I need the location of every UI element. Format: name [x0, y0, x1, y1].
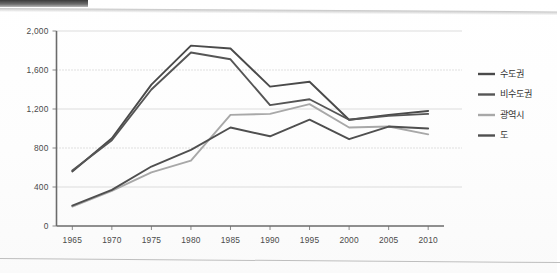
x-tick-label: 1980: [181, 235, 201, 245]
x-tick-label: 1975: [142, 235, 162, 245]
y-tick-label: 1,200: [27, 104, 49, 114]
x-tick-label: 1995: [300, 235, 320, 245]
page-top-dark-bar: [0, 0, 88, 7]
chart-container: 04008001,2001,6002,000 19651970197519801…: [0, 12, 557, 260]
legend-label-2[interactable]: 비수도권: [500, 88, 532, 99]
chart-legend: 수도권비수도권광역시도: [478, 68, 532, 141]
x-tick-label: 1970: [102, 235, 122, 245]
legend-label-4[interactable]: 도: [500, 130, 508, 140]
series-line-4: [72, 120, 428, 206]
x-tick-label: 2010: [418, 235, 438, 245]
y-tick-label: 1,600: [27, 65, 49, 75]
gridlines: [57, 31, 463, 187]
y-tick-label: 800: [34, 143, 49, 153]
x-tick-label: 1990: [260, 235, 280, 245]
x-tick-label: 2005: [379, 235, 399, 245]
y-tick-label: 400: [34, 182, 49, 192]
y-tick-label: 0: [44, 221, 49, 231]
x-tick-label: 1965: [63, 235, 83, 245]
x-axis-tick-labels: 1965197019751980198519901995200020052010: [63, 235, 438, 245]
legend-label-3[interactable]: 광역시: [500, 109, 524, 120]
x-tick-label: 2000: [339, 235, 359, 245]
x-tick-label: 1985: [221, 235, 241, 245]
y-axis-tick-labels: 04008001,2001,6002,000: [27, 26, 49, 231]
series-line-1: [72, 46, 428, 172]
legend-label-1[interactable]: 수도권: [500, 68, 524, 79]
line-chart: 04008001,2001,6002,000 19651970197519801…: [0, 12, 557, 260]
y-tick-label: 2,000: [27, 26, 49, 36]
